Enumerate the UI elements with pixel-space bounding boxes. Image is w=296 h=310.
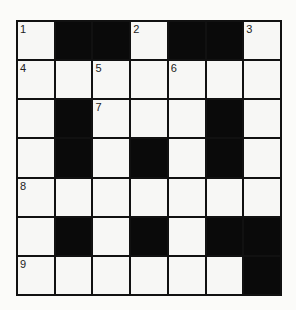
answer-square[interactable]	[169, 257, 205, 294]
answer-square[interactable]	[56, 257, 92, 294]
answer-square[interactable]	[93, 179, 129, 216]
black-square	[207, 22, 243, 59]
answer-square[interactable]	[93, 139, 129, 176]
answer-square[interactable]	[169, 100, 205, 137]
answer-square[interactable]	[18, 139, 54, 176]
answer-square[interactable]	[244, 61, 280, 98]
clue-number: 3	[246, 23, 252, 35]
crossword-grid: 123456789	[16, 20, 282, 296]
clue-number: 1	[20, 23, 26, 35]
black-square	[131, 218, 167, 255]
answer-square[interactable]	[131, 257, 167, 294]
clue-number: 5	[95, 62, 101, 74]
clue-number: 7	[95, 101, 101, 113]
answer-square[interactable]	[169, 139, 205, 176]
answer-square[interactable]	[131, 61, 167, 98]
black-square	[207, 100, 243, 137]
answer-square[interactable]: 3	[244, 22, 280, 59]
answer-square[interactable]: 7	[93, 100, 129, 137]
answer-square[interactable]: 5	[93, 61, 129, 98]
black-square	[169, 22, 205, 59]
answer-square[interactable]	[244, 179, 280, 216]
clue-number: 4	[20, 62, 26, 74]
black-square	[207, 218, 243, 255]
black-square	[56, 22, 92, 59]
black-square	[56, 139, 92, 176]
black-square	[131, 139, 167, 176]
clue-number: 8	[20, 180, 26, 192]
black-square	[56, 100, 92, 137]
answer-square[interactable]: 4	[18, 61, 54, 98]
answer-square[interactable]	[56, 179, 92, 216]
clue-number: 6	[171, 62, 177, 74]
answer-square[interactable]	[207, 179, 243, 216]
black-square	[93, 22, 129, 59]
answer-square[interactable]	[93, 257, 129, 294]
black-square	[244, 257, 280, 294]
clue-number: 2	[133, 23, 139, 35]
answer-square[interactable]	[131, 179, 167, 216]
answer-square[interactable]: 6	[169, 61, 205, 98]
black-square	[56, 218, 92, 255]
answer-square[interactable]	[207, 61, 243, 98]
black-square	[207, 139, 243, 176]
black-square	[244, 218, 280, 255]
answer-square[interactable]: 1	[18, 22, 54, 59]
answer-square[interactable]	[169, 218, 205, 255]
answer-square[interactable]	[207, 257, 243, 294]
answer-square[interactable]	[244, 139, 280, 176]
answer-square[interactable]	[56, 61, 92, 98]
answer-square[interactable]	[18, 218, 54, 255]
answer-square[interactable]	[131, 100, 167, 137]
answer-square[interactable]	[93, 218, 129, 255]
clue-number: 9	[20, 258, 26, 270]
answer-square[interactable]: 2	[131, 22, 167, 59]
crossword-page: 123456789	[0, 0, 296, 310]
answer-square[interactable]: 8	[18, 179, 54, 216]
answer-square[interactable]: 9	[18, 257, 54, 294]
answer-square[interactable]	[244, 100, 280, 137]
answer-square[interactable]	[18, 100, 54, 137]
answer-square[interactable]	[169, 179, 205, 216]
